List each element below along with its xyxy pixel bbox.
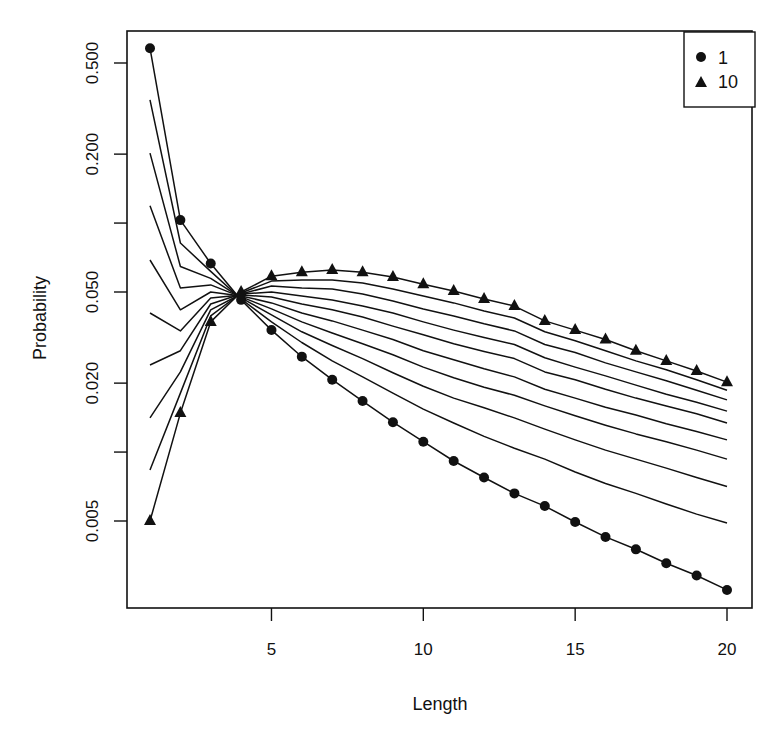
circle-marker-icon xyxy=(479,473,489,483)
legend-label-10: 10 xyxy=(718,72,738,92)
legend-box xyxy=(684,32,755,107)
circle-marker-icon xyxy=(175,215,185,225)
x-axis-label: Length xyxy=(412,694,467,714)
circle-marker-icon xyxy=(540,501,550,511)
circle-marker-icon xyxy=(449,456,459,466)
series-markers xyxy=(144,43,733,595)
series-1-line xyxy=(150,48,727,590)
circle-marker-icon xyxy=(297,352,307,362)
circle-marker-icon xyxy=(661,558,671,568)
triangle-marker-icon xyxy=(205,315,217,326)
triangle-marker-icon xyxy=(174,406,186,417)
circle-marker-icon xyxy=(145,43,155,53)
x-tick-label: 5 xyxy=(267,640,276,659)
circle-marker-icon xyxy=(418,437,428,447)
x-tick-label: 20 xyxy=(718,640,737,659)
legend: 1 10 xyxy=(684,32,755,107)
circle-marker-icon xyxy=(722,585,732,595)
triangle-marker-icon xyxy=(265,269,277,280)
circle-marker-icon xyxy=(692,571,702,581)
y-tick-label: 0.200 xyxy=(83,133,102,176)
triangle-marker-icon xyxy=(296,265,308,276)
x-tick-label: 10 xyxy=(414,640,433,659)
circle-marker-icon xyxy=(206,258,216,268)
circle-marker-icon xyxy=(358,396,368,406)
triangle-marker-icon xyxy=(144,514,156,525)
series-2-line xyxy=(150,100,727,523)
triangle-marker-icon xyxy=(326,263,338,274)
series-4-line xyxy=(150,206,727,459)
circle-marker-icon xyxy=(509,488,519,498)
circle-marker-icon xyxy=(570,517,580,527)
circle-marker-icon xyxy=(236,295,246,305)
y-tick-label: 0.500 xyxy=(83,42,102,85)
triangle-marker-icon xyxy=(357,265,369,276)
triangle-marker-icon xyxy=(387,270,399,281)
y-tick-label: 0.020 xyxy=(83,362,102,405)
series-lines xyxy=(150,48,727,590)
y-axis: 0.5000.2000.0500.0200.005 xyxy=(83,42,127,543)
series-6-line xyxy=(150,295,727,423)
legend-label-1: 1 xyxy=(718,48,728,68)
series-3-line xyxy=(150,153,727,486)
y-axis-label: Probability xyxy=(30,276,50,360)
circle-marker-icon xyxy=(696,52,706,62)
circle-marker-icon xyxy=(266,325,276,335)
probability-vs-length-chart: 0.5000.2000.0500.0200.005 5101520 Length… xyxy=(0,0,778,739)
circle-marker-icon xyxy=(327,375,337,385)
circle-marker-icon xyxy=(388,417,398,427)
circle-marker-icon xyxy=(601,532,611,542)
y-tick-label: 0.005 xyxy=(83,500,102,543)
y-tick-label: 0.050 xyxy=(83,271,102,314)
series-9-line xyxy=(150,280,727,470)
circle-marker-icon xyxy=(631,544,641,554)
x-tick-label: 15 xyxy=(566,640,585,659)
plot-frame xyxy=(127,31,752,608)
x-axis: 5101520 xyxy=(267,608,737,659)
series-10-line xyxy=(150,270,727,521)
